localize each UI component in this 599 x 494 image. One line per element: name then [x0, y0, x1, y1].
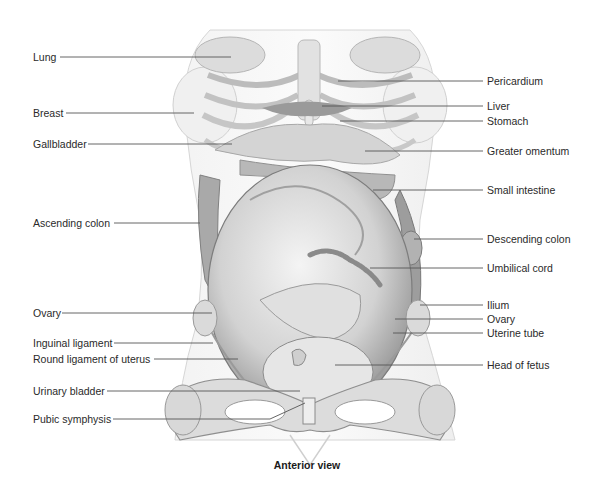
- label-breast: Breast: [33, 107, 63, 119]
- label-urinary-bladder: Urinary bladder: [33, 385, 105, 397]
- label-uterine-tube: Uterine tube: [487, 327, 544, 339]
- label-inguinal-ligament: Inguinal ligament: [33, 337, 112, 349]
- label-pubic-symphysis: Pubic symphysis: [33, 413, 111, 425]
- ovary-left-shape: [193, 300, 217, 336]
- label-ascending-colon: Ascending colon: [33, 217, 110, 229]
- label-ovary-right: Ovary: [487, 313, 515, 325]
- label-ilium: Ilium: [487, 299, 509, 311]
- label-greater-omentum: Greater omentum: [487, 145, 569, 157]
- label-pericardium: Pericardium: [487, 75, 543, 87]
- label-stomach: Stomach: [487, 115, 528, 127]
- label-ovary-left: Ovary: [33, 307, 61, 319]
- anatomy-figure: Lung Breast Gallbladder Ascending colon …: [0, 0, 599, 494]
- label-gallbladder: Gallbladder: [33, 138, 87, 150]
- label-descending-colon: Descending colon: [487, 233, 570, 245]
- label-umbilical-cord: Umbilical cord: [487, 262, 553, 274]
- figure-caption: Anterior view: [0, 459, 599, 471]
- fetus: [208, 165, 412, 415]
- label-round-ligament: Round ligament of uterus: [33, 353, 150, 365]
- label-liver: Liver: [487, 100, 510, 112]
- label-small-intestine: Small intestine: [487, 184, 555, 196]
- label-lung: Lung: [33, 51, 56, 63]
- label-head-of-fetus: Head of fetus: [487, 359, 549, 371]
